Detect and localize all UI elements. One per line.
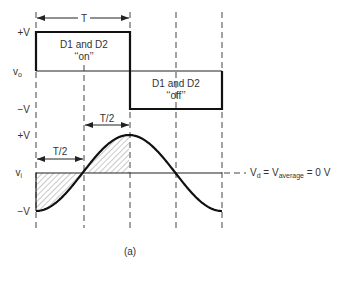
on-state-label-line2: ‘‘on’’ <box>74 51 94 62</box>
hatched-area-positive <box>83 135 130 173</box>
on-state-label-line1: D1 and D2 <box>60 39 108 50</box>
half-period-label-lower: T/2 <box>53 146 68 157</box>
vi-high-label: +V <box>17 130 30 141</box>
vo-high-label: +V <box>17 27 30 38</box>
hatched-area-negative <box>36 173 83 211</box>
average-voltage-label: Vd = Vaverage = 0 V <box>250 167 331 180</box>
vi-axis-label: vi <box>15 167 22 179</box>
clamper-waveform-diagram: T +V vo −V D1 and D2 ‘‘on’’ D1 and D2 ‘‘… <box>0 0 342 283</box>
off-state-label-line1: D1 and D2 <box>152 78 200 89</box>
vi-low-label: −V <box>17 206 30 217</box>
figure-caption: (a) <box>124 246 136 257</box>
off-state-label-line2: ‘‘off’’ <box>166 90 186 101</box>
vo-axis-label: vo <box>13 66 22 78</box>
half-period-label-upper: T/2 <box>100 113 115 124</box>
period-label: T <box>81 13 87 24</box>
vo-low-label: −V <box>17 104 30 115</box>
